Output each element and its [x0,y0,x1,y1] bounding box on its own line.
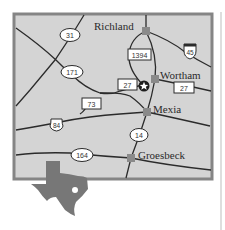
highway-shield-31: 31 [60,29,80,42]
svg-text:84: 84 [53,122,61,129]
highway-shield-73: 73 [82,98,101,109]
svg-text:73: 73 [88,101,96,108]
city-label-mexia: Mexia [153,103,181,115]
highway-shield-14: 14 [130,129,148,142]
location-star-icon [139,81,150,92]
highway-shield-45-interstate: 45 [184,44,196,59]
svg-text:1394: 1394 [132,52,148,59]
map: Richland Wortham Mexia Groesbeck 31 171 … [0,0,225,230]
svg-text:164: 164 [76,152,88,159]
svg-text:27: 27 [124,82,132,89]
city-label-groesbeck: Groesbeck [138,149,186,161]
city-marker-mexia [143,108,151,116]
highway-shield-171: 171 [61,66,83,79]
city-marker-wortham [151,75,159,83]
city-label-richland: Richland [94,20,134,32]
svg-text:27: 27 [180,85,188,92]
city-label-wortham: Wortham [160,69,201,81]
highway-shield-27-west: 27 [118,79,137,90]
svg-text:14: 14 [135,132,143,139]
city-marker-richland [142,27,150,35]
city-marker-groesbeck [127,154,135,162]
highway-shield-84-us: 84 [50,119,63,131]
svg-text:45: 45 [186,49,194,56]
highway-shield-27-east: 27 [174,82,194,93]
highway-shield-164: 164 [71,149,93,162]
svg-text:171: 171 [66,69,78,76]
svg-text:31: 31 [66,32,74,39]
highway-shield-1394: 1394 [128,49,151,60]
